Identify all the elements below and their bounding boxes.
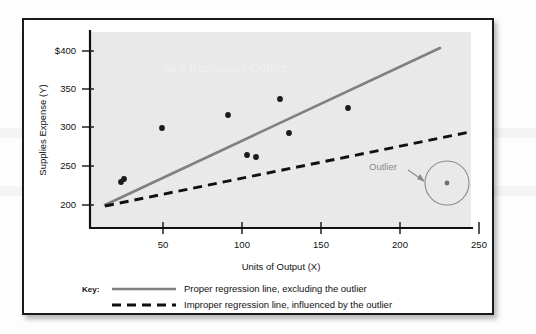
data-point [244, 152, 250, 158]
data-point [345, 105, 351, 111]
key-label: Key: [82, 285, 99, 294]
data-point [277, 96, 283, 102]
data-point [253, 154, 259, 160]
outlier-annotation-label: Outlier [369, 161, 397, 172]
x-tick-label-150: 150 [313, 239, 329, 250]
data-point [286, 130, 292, 136]
outlier-data-point [445, 181, 450, 186]
chart-svg: ng a Regression Outlier $400 350 300 250… [24, 20, 492, 313]
figure-container: ng a Regression Outlier $400 350 300 250… [0, 0, 536, 334]
x-tick-label-200: 200 [392, 239, 408, 250]
y-tick-label-200: 200 [60, 199, 76, 210]
legend-label-improper: Improper regression line, influenced by … [184, 299, 392, 310]
y-tick-label-250: 250 [60, 160, 76, 171]
chart-frame: ng a Regression Outlier $400 350 300 250… [22, 18, 494, 315]
x-axis-title: Units of Output (X) [242, 261, 321, 272]
y-tick-label-350: 350 [60, 83, 76, 94]
y-tick-label-300: 300 [60, 121, 76, 132]
data-point [225, 112, 231, 118]
legend-label-proper: Proper regression line, excluding the ou… [184, 283, 367, 294]
y-tick-label-400: $400 [55, 45, 76, 56]
background-ghost-text: ng a Regression Outlier [164, 60, 288, 75]
x-tick-label-250: 250 [471, 239, 487, 250]
x-tick-label-100: 100 [234, 239, 250, 250]
data-point [121, 176, 127, 182]
y-axis-title: Supplies Expense (Y) [37, 84, 48, 175]
x-tick-label-50: 50 [158, 239, 169, 250]
data-point [159, 125, 165, 131]
